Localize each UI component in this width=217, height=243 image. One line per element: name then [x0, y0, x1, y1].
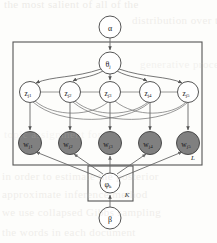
node-alpha[interactable]: α	[99, 16, 121, 38]
node-phi[interactable]: φk	[100, 173, 120, 193]
node-z1[interactable]: zj1	[20, 82, 41, 103]
node-w4[interactable]: wj4	[139, 132, 162, 155]
figure-root: the most salient of all of thedistributi…	[0, 0, 217, 243]
plate-topic-label: K	[124, 191, 130, 199]
node-theta[interactable]: θj	[99, 52, 121, 74]
node-w2[interactable]: wj2	[59, 132, 82, 155]
nodes-group: α θj zj1	[19, 16, 200, 229]
node-z3[interactable]: zj3	[100, 82, 121, 103]
node-w3[interactable]: wj3	[99, 132, 122, 155]
node-w5[interactable]: wj5	[177, 132, 200, 155]
w-nodes-group: wj1 wj2 wj3	[19, 132, 200, 155]
node-w1[interactable]: wj1	[19, 132, 42, 155]
node-z4[interactable]: zj4	[140, 82, 161, 103]
graphical-model-canvas: L K	[0, 0, 217, 243]
node-z5[interactable]: zj5	[178, 82, 199, 103]
plate-document-label: L	[190, 154, 195, 162]
edge-phi-w4	[117, 154, 146, 174]
node-z2[interactable]: zj2	[60, 82, 81, 103]
node-beta-label: β	[108, 214, 112, 223]
node-beta[interactable]: β	[99, 207, 121, 229]
